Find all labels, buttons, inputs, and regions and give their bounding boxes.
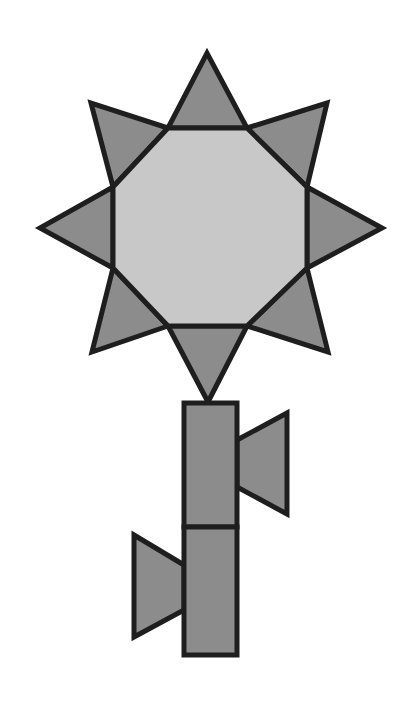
stem-segments (184, 403, 237, 655)
flower-center-octagon (113, 128, 307, 326)
flower-illustration (0, 0, 409, 704)
stem-upper-segment (184, 403, 237, 527)
stem-lower-segment (184, 527, 237, 655)
